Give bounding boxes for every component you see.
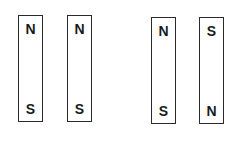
bar-magnet-2: N S <box>67 15 92 122</box>
pole-label-bottom: S <box>19 101 42 117</box>
pole-label-bottom: S <box>152 103 175 119</box>
bar-magnet-4: S N <box>199 17 224 124</box>
pole-label-bottom: N <box>200 103 223 119</box>
pole-label-bottom: S <box>68 101 91 117</box>
bar-magnet-3: N S <box>151 17 176 124</box>
pole-label-top: N <box>68 21 91 37</box>
bar-magnet-1: N S <box>18 15 43 122</box>
pole-label-top: N <box>152 23 175 39</box>
pole-label-top: N <box>19 21 42 37</box>
pole-label-top: S <box>200 23 223 39</box>
